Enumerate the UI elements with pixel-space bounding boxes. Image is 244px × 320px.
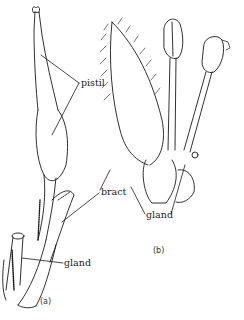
gland-drawing-b bbox=[143, 152, 198, 203]
botanical-figure: pistil bract gland gland (b) (a) bbox=[0, 0, 244, 320]
pistil-label: pistil bbox=[81, 78, 105, 88]
panel-caption-a: (a) bbox=[40, 298, 51, 306]
gland-label-a: gland bbox=[64, 258, 91, 268]
stamen-drawing-b bbox=[164, 19, 230, 152]
bract-drawing-b bbox=[100, 18, 164, 165]
gland-label-b: gland bbox=[146, 210, 173, 220]
pistil-drawing-a bbox=[32, 7, 67, 240]
bract-label: bract bbox=[101, 187, 126, 197]
gland-drawing-a bbox=[3, 233, 24, 300]
figure-drawing bbox=[0, 0, 244, 320]
bract-drawing-a bbox=[18, 191, 74, 308]
panel-caption-b: (b) bbox=[153, 247, 164, 255]
